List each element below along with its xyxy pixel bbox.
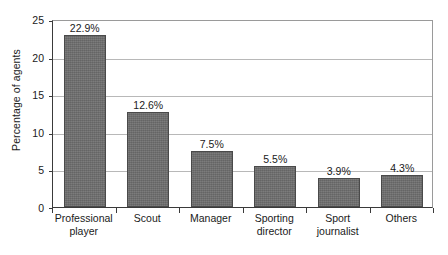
bar-slot-sport-journalist: 3.9%: [307, 21, 371, 207]
y-tick-label: 5: [26, 165, 48, 175]
bar-slot-professional-player: 22.9%: [53, 21, 117, 207]
bar-chart-figure: Percentage of agents 0 5 10 15 20 25 22.…: [0, 0, 448, 255]
y-tick-label: 15: [26, 90, 48, 100]
bar-value-label: 12.6%: [133, 99, 163, 111]
x-label-line-1: Scout: [116, 212, 180, 225]
x-label-line-1: Professional: [52, 212, 116, 225]
x-label-line-1: Sporting: [243, 212, 307, 225]
y-axis-tick-labels: 0 5 10 15 20 25: [26, 0, 48, 208]
bar-sporting-director[interactable]: [254, 166, 296, 207]
bar-slot-sporting-director: 5.5%: [244, 21, 308, 207]
x-axis-label-manager: Manager: [179, 212, 243, 225]
x-label-line-2: director: [243, 225, 307, 238]
x-axis-label-professional-player: Professional player: [52, 212, 116, 238]
x-label-line-1: Manager: [179, 212, 243, 225]
x-label-line-1: Others: [370, 212, 434, 225]
bars-layer: 22.9% 12.6% 7.5% 5.5% 3.9% 4.3%: [53, 21, 432, 207]
bar-value-label: 7.5%: [200, 138, 224, 150]
x-label-line-2: player: [52, 225, 116, 238]
x-axis-label-sport-journalist: Sport journalist: [306, 212, 370, 238]
bar-value-label: 4.3%: [390, 162, 414, 174]
y-tick-label: 0: [26, 203, 48, 213]
x-axis-label-others: Others: [370, 212, 434, 225]
bar-value-label: 3.9%: [327, 165, 351, 177]
bar-professional-player[interactable]: [64, 35, 106, 207]
x-label-line-1: Sport: [306, 212, 370, 225]
bar-scout[interactable]: [127, 112, 169, 207]
bar-manager[interactable]: [191, 151, 233, 207]
x-tick-mark: [433, 208, 434, 213]
bar-value-label: 5.5%: [263, 153, 287, 165]
bar-slot-scout: 12.6%: [117, 21, 181, 207]
bar-value-label: 22.9%: [70, 22, 100, 34]
x-axis-label-scout: Scout: [116, 212, 180, 225]
bar-sport-journalist[interactable]: [318, 178, 360, 207]
y-axis-title: Percentage of agents: [5, 5, 27, 195]
x-axis-label-sporting-director: Sporting director: [243, 212, 307, 238]
y-tick-label: 25: [26, 15, 48, 25]
bar-slot-others: 4.3%: [371, 21, 435, 207]
y-tick-label: 20: [26, 53, 48, 63]
x-label-line-2: journalist: [306, 225, 370, 238]
y-tick-label: 10: [26, 128, 48, 138]
bar-slot-manager: 7.5%: [180, 21, 244, 207]
bar-others[interactable]: [381, 175, 423, 207]
plot-area: 22.9% 12.6% 7.5% 5.5% 3.9% 4.3%: [52, 20, 433, 208]
